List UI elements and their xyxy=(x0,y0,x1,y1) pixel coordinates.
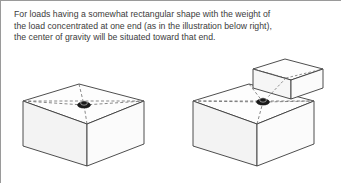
left-cog-dome xyxy=(81,101,88,105)
illustrations-svg xyxy=(1,53,341,183)
figure-panel: For loads having a somewhat rectangular … xyxy=(0,0,341,183)
right-figure-end-weighted-load xyxy=(193,59,323,166)
left-figure-uniform-load xyxy=(23,84,144,166)
caption-text: For loads having a somewhat rectangular … xyxy=(14,9,324,44)
illustration-group xyxy=(1,53,341,183)
right-cog-dome xyxy=(260,98,267,102)
